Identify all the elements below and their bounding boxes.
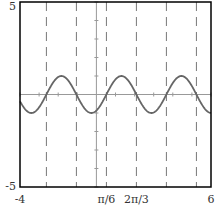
function-plot: -4π/62π/365-5 [0,0,219,210]
y-tick-label: 5 [9,0,16,13]
y-tick-label: -5 [5,180,16,193]
x-tick-label: π/6 [97,193,115,206]
x-tick-label: -4 [15,193,26,206]
x-tick-label: 2π/3 [124,193,149,206]
plot-background [0,0,219,210]
x-tick-label: 6 [208,193,215,206]
